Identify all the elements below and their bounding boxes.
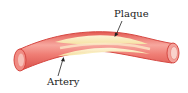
artery-left-lumen (18, 54, 24, 67)
artery-arrowhead-icon (61, 57, 65, 62)
artery-diagram: Plaque Artery (0, 0, 188, 93)
artery-right-lumen (171, 47, 178, 60)
artery-illustration (0, 0, 188, 93)
plaque-label: Plaque (114, 9, 149, 19)
artery-label: Artery (47, 77, 79, 87)
artery-arrow (58, 59, 63, 76)
